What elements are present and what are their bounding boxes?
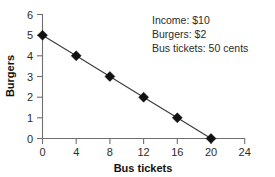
y-axis-title: Burgers [4,55,16,97]
data-point-12-2 [139,92,149,102]
annotation-income: Income: $10 [152,14,210,26]
y-tick-label-3: 3 [27,71,33,83]
x-tick-label-0: 0 [39,146,45,158]
data-point-16-1 [172,113,182,123]
y-tick-label-6: 6 [27,9,33,21]
annotation-bus-tickets-price: Bus tickets: 50 cents [152,42,248,54]
data-point-0-5 [38,30,48,40]
y-tick-label-2: 2 [27,91,33,103]
y-tick-label-4: 4 [27,50,33,62]
budget-constraint-chart: 0 1 2 3 4 5 6 0 4 8 12 16 20 24 Bus tick… [0,0,275,177]
x-tick-label-20: 20 [205,146,217,158]
y-tick-label-5: 5 [27,29,33,41]
annotation-burgers-price: Burgers: $2 [152,28,206,40]
data-point-20-0 [206,134,216,144]
x-axis-title: Bus tickets [114,162,173,174]
y-tick-label-0: 0 [27,133,33,145]
x-tick-label-16: 16 [171,146,183,158]
y-tick-label-1: 1 [27,112,33,124]
x-tick-label-24: 24 [239,146,251,158]
annotation-block: Income: $10 Burgers: $2 Bus tickets: 50 … [152,14,248,54]
x-tick-label-12: 12 [137,146,149,158]
chart-canvas: 0 1 2 3 4 5 6 0 4 8 12 16 20 24 Bus tick… [0,0,275,177]
data-point-4-4 [71,51,81,61]
data-point-8-3 [105,72,115,82]
x-tick-label-8: 8 [107,146,113,158]
x-tick-label-4: 4 [73,146,79,158]
